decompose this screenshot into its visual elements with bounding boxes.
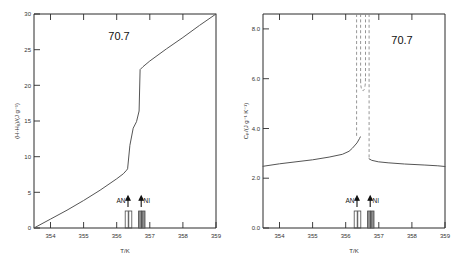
- y-tick-label: 6.0: [252, 76, 261, 82]
- y-tick-label: 10: [24, 154, 31, 160]
- heat-capacity-posttransition-curve: [369, 159, 445, 167]
- y-tick-label: 2.0: [252, 175, 261, 181]
- y-axis-title: (H-H₀)/(J g⁻¹): [14, 103, 20, 139]
- x-axis-tick-labels: 354 355 356 357 358 359: [274, 233, 450, 239]
- marker-label-ni: NI: [373, 197, 380, 204]
- x-tick-label: 357: [374, 233, 385, 239]
- marker-bar: [129, 211, 132, 228]
- marker-arrowhead-an: [355, 196, 359, 200]
- enthalpy-plot-svg: 0 5 10 15 20 25 30: [0, 0, 229, 265]
- marker-bar: [371, 211, 374, 228]
- x-tick-label: 358: [178, 233, 189, 239]
- x-tick-label: 359: [211, 233, 222, 239]
- two-phase-dip-curve: [361, 78, 366, 91]
- x-tick-label: 357: [145, 233, 156, 239]
- panel-heat-capacity: 0.0 2.0 4.0 6.0 8.0 354: [229, 0, 458, 265]
- y-tick-label: 4.0: [252, 126, 261, 132]
- y-tick-label: 5: [28, 190, 32, 196]
- y-tick-label: 30: [24, 11, 31, 17]
- marker-bar: [139, 211, 142, 228]
- heat-capacity-pretransition-curve: [263, 137, 360, 166]
- x-tick-label: 355: [308, 233, 319, 239]
- marker-bar: [358, 211, 361, 228]
- x-tick-label: 354: [274, 233, 285, 239]
- divergence-lines: [357, 14, 370, 159]
- plot-frame: [34, 14, 216, 228]
- y-tick-label: 0: [28, 225, 32, 231]
- x-tick-label: 358: [407, 233, 418, 239]
- x-tick-label: 356: [112, 233, 123, 239]
- transition-markers: AN NI: [345, 196, 379, 228]
- y-tick-label: 15: [24, 118, 31, 124]
- y-axis-ticks: [34, 14, 40, 228]
- y-axis-ticks: [263, 29, 269, 228]
- figure-container: 0 5 10 15 20 25 30: [0, 0, 459, 265]
- y-axis-tick-labels: 0 5 10 15 20 25 30: [24, 11, 31, 231]
- x-axis-title: T/K: [349, 248, 358, 254]
- plot-frame: [263, 14, 445, 228]
- transition-markers: AN NI: [116, 196, 150, 228]
- panel-annotation: 70.7: [108, 30, 129, 42]
- x-axis-title: T/K: [120, 248, 129, 254]
- x-axis-ticks: [51, 14, 217, 228]
- x-tick-label: 354: [45, 233, 56, 239]
- heat-capacity-plot-svg: 0.0 2.0 4.0 6.0 8.0 354: [229, 0, 458, 265]
- x-axis-tick-labels: 354 355 356 357 358 359: [45, 233, 221, 239]
- x-tick-label: 359: [440, 233, 451, 239]
- marker-bar: [354, 211, 357, 228]
- y-axis-title: Cₚ/(J g⁻¹ K⁻¹): [243, 103, 249, 140]
- y-tick-label: 0.0: [252, 225, 261, 231]
- x-tick-label: 355: [79, 233, 90, 239]
- marker-bar: [368, 211, 371, 228]
- y-tick-label: 8.0: [252, 26, 261, 32]
- y-tick-label: 25: [24, 47, 31, 53]
- y-axis-tick-labels: 0.0 2.0 4.0 6.0 8.0: [252, 26, 261, 231]
- marker-label-an: AN: [345, 197, 354, 204]
- marker-bar: [125, 211, 128, 228]
- x-tick-label: 356: [341, 233, 352, 239]
- panel-enthalpy: 0 5 10 15 20 25 30: [0, 0, 229, 265]
- marker-label-an: AN: [116, 197, 125, 204]
- marker-arrowhead-an: [126, 196, 130, 200]
- enthalpy-curve: [34, 14, 216, 228]
- marker-label-ni: NI: [144, 197, 151, 204]
- marker-bar: [142, 211, 145, 228]
- y-tick-label: 20: [24, 83, 31, 89]
- x-axis-ticks: [280, 14, 446, 228]
- panel-annotation: 70.7: [391, 34, 412, 46]
